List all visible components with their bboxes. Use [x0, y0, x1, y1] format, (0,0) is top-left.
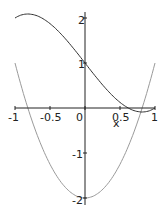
x-tick-label: -1	[8, 111, 19, 124]
x-tick-label: -0.5	[40, 111, 61, 124]
y-tick-label: 2	[78, 14, 85, 27]
x-tick-label: 0	[76, 111, 83, 124]
y-tick-label: -1	[72, 148, 83, 161]
y-tick-label: 1	[78, 58, 85, 71]
x-tick-label: 1	[151, 111, 158, 124]
x-tick-label: 0.5	[112, 111, 130, 124]
y-tick-label: -2	[72, 194, 83, 207]
plot-area: x -1 -0.5 0 0.5 1 2 1 -1 -2	[0, 0, 166, 215]
